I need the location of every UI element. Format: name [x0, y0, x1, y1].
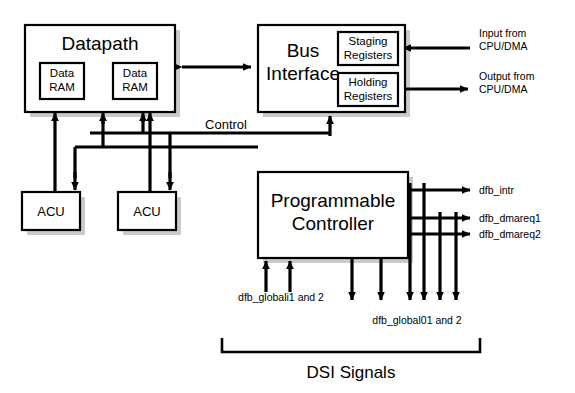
holding-registers-label-line1: Holding [349, 76, 388, 88]
dfb-dmareq2-label: dfb_dmareq2 [479, 228, 541, 240]
dsi-signals-bracket [222, 338, 480, 352]
programmable-controller-label-line1: Programmable [271, 190, 396, 211]
block-data-ram-2[interactable]: Data RAM [113, 63, 157, 99]
dfb-block-diagram: Datapath Data RAM Data RAM Bus Interface… [0, 0, 575, 393]
block-staging-registers[interactable]: Staging Registers [338, 32, 398, 65]
block-layer: Datapath Data RAM Data RAM Bus Interface… [22, 25, 408, 258]
block-acu-2[interactable]: ACU [118, 192, 176, 230]
data-ram-2-label-line2: RAM [122, 81, 148, 93]
acu-2-label: ACU [133, 204, 160, 219]
output-from-label-line2: CPU/DMA [479, 83, 527, 95]
output-from-label-line1: Output from [479, 70, 535, 82]
bus-interface-label-line1: Bus [287, 40, 320, 61]
dsi-signals-label: DSI Signals [307, 363, 396, 382]
input-from-label-line1: Input from [479, 27, 527, 39]
dfb-dmareq1-label: dfb_dmareq1 [479, 212, 541, 224]
bus-interface-label-line2: Interface [266, 63, 340, 84]
datapath-label: Datapath [61, 33, 138, 54]
control-label: Control [205, 117, 247, 132]
block-data-ram-1[interactable]: Data RAM [40, 63, 84, 99]
data-ram-1-label-line1: Data [50, 67, 75, 79]
acu-1-label: ACU [37, 204, 64, 219]
block-programmable-controller[interactable]: Programmable Controller [258, 172, 408, 258]
holding-registers-label-line2: Registers [344, 90, 393, 102]
dfb-globali-label: dfb_globali1 and 2 [238, 291, 324, 303]
dfb-global0-label: dfb_global01 and 2 [372, 314, 461, 326]
block-acu-1[interactable]: ACU [22, 192, 80, 230]
dfb-intr-label: dfb_intr [479, 184, 515, 196]
staging-registers-label-line1: Staging [348, 35, 387, 47]
programmable-controller-label-line2: Controller [292, 213, 375, 234]
staging-registers-label-line2: Registers [344, 49, 393, 61]
block-holding-registers[interactable]: Holding Registers [338, 73, 398, 106]
data-ram-2-label-line1: Data [123, 67, 148, 79]
data-ram-1-label-line2: RAM [49, 81, 75, 93]
input-from-label-line2: CPU/DMA [479, 40, 527, 52]
